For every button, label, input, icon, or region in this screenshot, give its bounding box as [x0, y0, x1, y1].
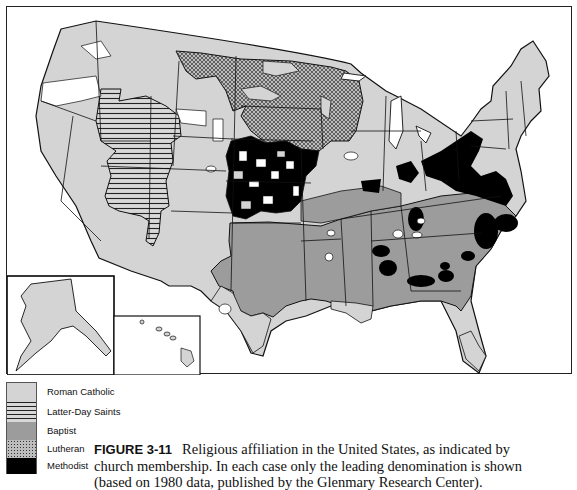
map-frame: [6, 6, 572, 374]
legend-label: Roman Catholic: [47, 386, 115, 398]
roman-catholic-swatch: [6, 382, 37, 402]
legend-label: Lutheran: [47, 443, 85, 455]
legend-item-roman-catholic: Roman Catholic: [6, 382, 206, 402]
methodist-swatch: [6, 458, 37, 474]
legend-label: Baptist: [47, 425, 76, 437]
figure-label: FIGURE 3-11: [94, 442, 172, 457]
legend-label: Latter-Day Saints: [47, 406, 120, 418]
legend-item-latter-day-saints: Latter-Day Saints: [6, 402, 206, 422]
caption-line-2: church membership. In each case only the…: [94, 458, 564, 474]
us-religion-map: [7, 7, 573, 375]
lutheran-swatch: [6, 440, 37, 458]
caption-line-1: FIGURE 3-11Religious affiliation in the …: [94, 441, 564, 458]
baptist-swatch: [6, 422, 37, 440]
latter-day-saints-swatch: [6, 402, 37, 422]
legend-label: Methodist: [47, 460, 88, 472]
caption-line-3: (based on 1980 data, published by the Gl…: [94, 474, 564, 490]
legend-item-baptist: Baptist: [6, 422, 206, 440]
figure-caption: FIGURE 3-11Religious affiliation in the …: [94, 441, 564, 490]
